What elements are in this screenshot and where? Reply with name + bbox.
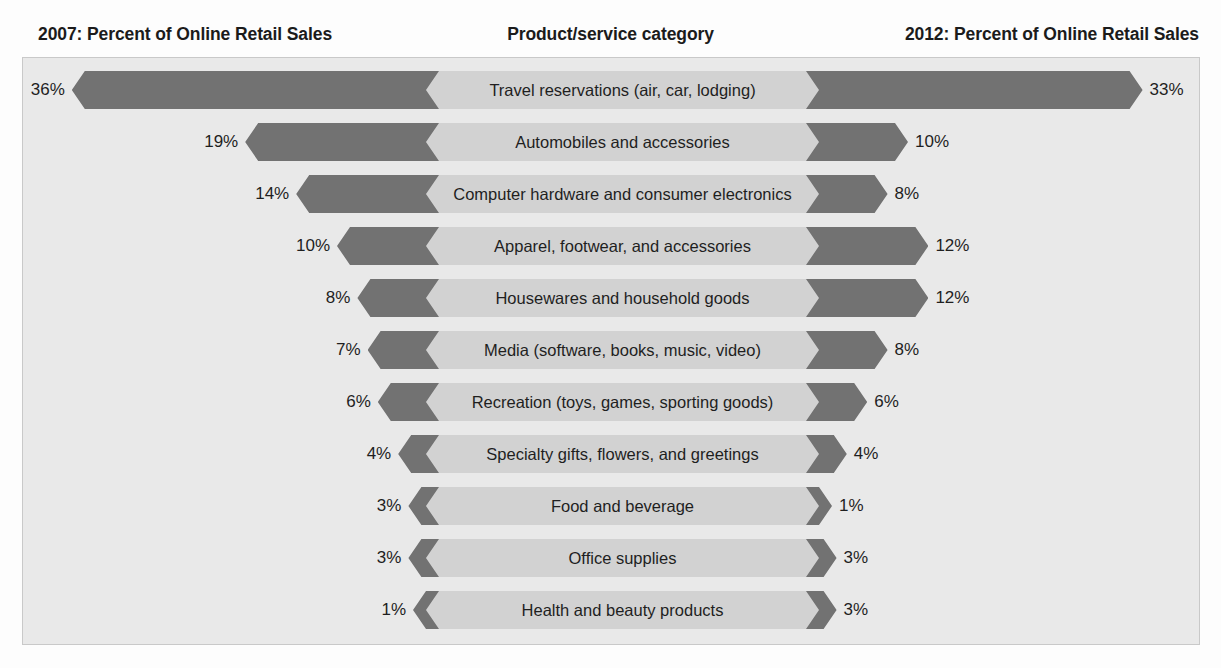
value-label-2012: 3% <box>844 539 934 577</box>
category-label: Apparel, footwear, and accessories <box>426 227 819 265</box>
chart-row: 8%12%Housewares and household goods <box>23 276 1201 320</box>
value-label-2007: 4% <box>301 435 391 473</box>
category-label: Recreation (toys, games, sporting goods) <box>426 383 819 421</box>
category-label: Travel reservations (air, car, lodging) <box>426 71 819 109</box>
chart-row-inner: 7%8%Media (software, books, music, video… <box>23 328 1201 372</box>
category-label: Computer hardware and consumer electroni… <box>426 175 819 213</box>
value-label-2007: 36% <box>0 71 65 109</box>
chart-row: 36%33%Travel reservations (air, car, lod… <box>23 68 1201 112</box>
value-label-2012: 8% <box>895 331 985 369</box>
bar-2007 <box>296 175 439 213</box>
category-label: Food and beverage <box>426 487 819 525</box>
value-label-2007: 14% <box>199 175 289 213</box>
bar-2012 <box>806 123 908 161</box>
category-label: Automobiles and accessories <box>426 123 819 161</box>
value-label-2007: 3% <box>311 487 401 525</box>
chart-row: 14%8%Computer hardware and consumer elec… <box>23 172 1201 216</box>
value-label-2007: 7% <box>271 331 361 369</box>
value-label-2007: 1% <box>316 591 406 629</box>
chart-row-inner: 4%4%Specialty gifts, flowers, and greeti… <box>23 432 1201 476</box>
value-label-2012: 1% <box>839 487 929 525</box>
chart-row-inner: 8%12%Housewares and household goods <box>23 276 1201 320</box>
chart-row: 4%4%Specialty gifts, flowers, and greeti… <box>23 432 1201 476</box>
category-label: Media (software, books, music, video) <box>426 331 819 369</box>
bar-2012 <box>806 71 1143 109</box>
chart-header: 2007: Percent of Online Retail Sales Pro… <box>0 24 1221 52</box>
category-label: Health and beauty products <box>426 591 819 629</box>
chart-row-inner: 10%12%Apparel, footwear, and accessories <box>23 224 1201 268</box>
value-label-2012: 10% <box>915 123 1005 161</box>
value-label-2012: 33% <box>1150 71 1221 109</box>
header-right-title: 2012: Percent of Online Retail Sales <box>905 24 1199 45</box>
value-label-2007: 19% <box>148 123 238 161</box>
value-label-2007: 3% <box>311 539 401 577</box>
bar-2012 <box>806 227 928 265</box>
chart-row-inner: 19%10%Automobiles and accessories <box>23 120 1201 164</box>
chart-row: 6%6%Recreation (toys, games, sporting go… <box>23 380 1201 424</box>
bar-2007 <box>245 123 439 161</box>
chart-row-inner: 6%6%Recreation (toys, games, sporting go… <box>23 380 1201 424</box>
bar-2007 <box>337 227 439 265</box>
value-label-2012: 6% <box>874 383 964 421</box>
chart-row-inner: 14%8%Computer hardware and consumer elec… <box>23 172 1201 216</box>
chart-row: 3%3%Office supplies <box>23 536 1201 580</box>
chart-row: 1%3%Health and beauty products <box>23 588 1201 632</box>
chart-row: 10%12%Apparel, footwear, and accessories <box>23 224 1201 268</box>
tornado-chart: 2007: Percent of Online Retail Sales Pro… <box>0 0 1221 668</box>
chart-row-inner: 3%3%Office supplies <box>23 536 1201 580</box>
value-label-2012: 3% <box>844 591 934 629</box>
chart-row-inner: 1%3%Health and beauty products <box>23 588 1201 632</box>
value-label-2007: 6% <box>281 383 371 421</box>
plot-area: 36%33%Travel reservations (air, car, lod… <box>22 57 1200 645</box>
value-label-2012: 8% <box>895 175 985 213</box>
chart-row-inner: 3%1%Food and beverage <box>23 484 1201 528</box>
bar-2007 <box>72 71 439 109</box>
bar-2012 <box>806 279 928 317</box>
value-label-2007: 10% <box>240 227 330 265</box>
value-label-2012: 12% <box>935 279 1025 317</box>
chart-row: 7%8%Media (software, books, music, video… <box>23 328 1201 372</box>
category-label: Specialty gifts, flowers, and greetings <box>426 435 819 473</box>
chart-row: 3%1%Food and beverage <box>23 484 1201 528</box>
value-label-2007: 8% <box>260 279 350 317</box>
chart-row-inner: 36%33%Travel reservations (air, car, lod… <box>23 68 1201 112</box>
chart-row: 19%10%Automobiles and accessories <box>23 120 1201 164</box>
value-label-2012: 12% <box>935 227 1025 265</box>
category-label: Office supplies <box>426 539 819 577</box>
category-label: Housewares and household goods <box>426 279 819 317</box>
value-label-2012: 4% <box>854 435 944 473</box>
